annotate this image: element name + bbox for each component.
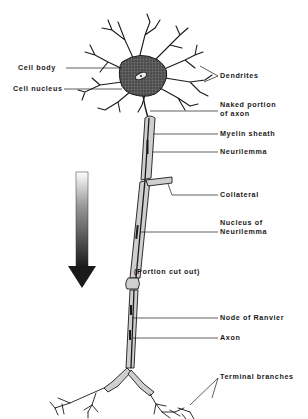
label-portion-cut-out: (Portion cut out) — [134, 268, 200, 277]
impulse-direction-arrow — [68, 172, 96, 288]
label-collateral: Collateral — [220, 191, 259, 200]
label-nucleus-of-neurilemma: Nucleus of Neurilemma — [220, 219, 267, 236]
naked-axon-shape — [143, 96, 148, 118]
label-naked-axon-line2: of axon — [220, 110, 276, 119]
label-axon: Axon — [220, 334, 240, 343]
label-naked-axon: Naked portion of axon — [220, 101, 276, 118]
label-node-of-ranvier: Node of Ranvier — [220, 314, 284, 323]
label-terminal-branches: Terminal branches — [220, 373, 294, 382]
label-cell-body: Cell body — [18, 64, 56, 73]
label-myelin-sheath: Myelin sheath — [220, 130, 275, 139]
terminal-branches — [50, 388, 194, 419]
label-cell-nucleus: Cell nucleus — [13, 85, 63, 94]
label-neurilemma: Neurilemma — [220, 148, 267, 157]
label-nucleus-line2: Neurilemma — [220, 228, 267, 237]
label-dendrites: Dendrites — [220, 72, 259, 81]
